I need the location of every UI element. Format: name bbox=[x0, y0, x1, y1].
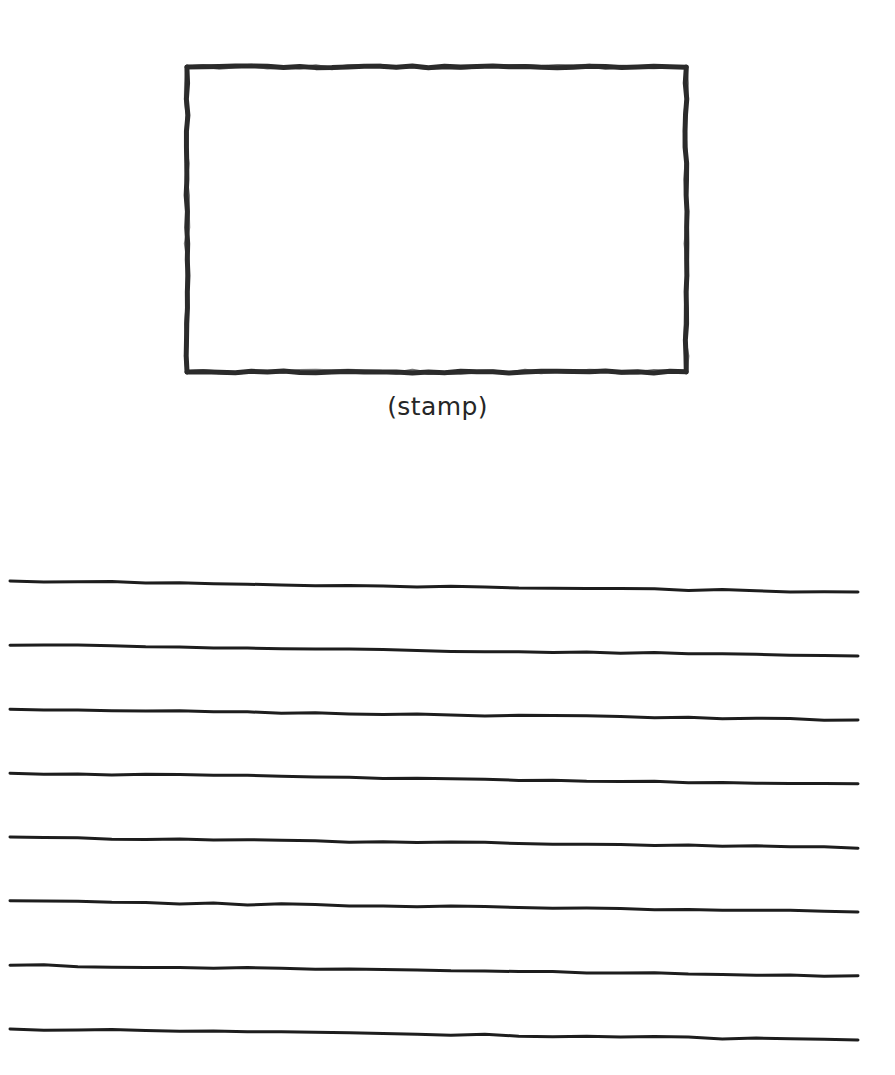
worksheet-page: (stamp) bbox=[0, 0, 895, 1075]
stamp-box-interior bbox=[187, 67, 686, 372]
stamp-caption-label: (stamp) bbox=[0, 392, 875, 421]
stamp-box[interactable] bbox=[186, 66, 688, 374]
worksheet-canvas bbox=[0, 0, 895, 1075]
